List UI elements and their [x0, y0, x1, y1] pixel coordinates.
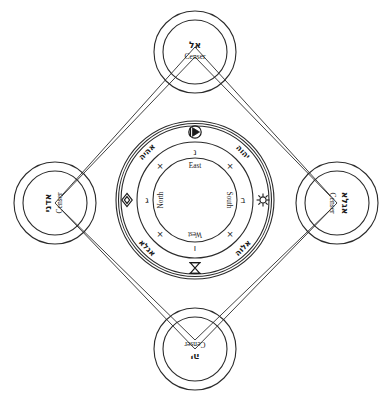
south-label-text: South — [225, 192, 233, 209]
symbol-west-hourglass — [189, 263, 200, 274]
cross-mark-se: × — [226, 229, 233, 239]
north-label-text: North — [157, 191, 165, 208]
east-label-text: East — [189, 162, 201, 170]
sigil-right: ב — [241, 195, 246, 205]
diamond-lines — [55, 47, 337, 349]
sigil-left-text: ג — [145, 195, 149, 205]
cross-mark-nw-text: × — [156, 161, 163, 171]
cross-mark-se-text: × — [226, 229, 233, 239]
cross-mark-sw: × — [156, 229, 163, 239]
sigil-left: ג — [145, 195, 149, 205]
cross-mark-sw-text: × — [156, 229, 163, 239]
sigil-top: נ — [193, 147, 196, 157]
west-label: West — [188, 230, 202, 238]
censer-bottom-label: Censer — [184, 340, 206, 349]
sigil-bottom-text: ו — [194, 243, 196, 253]
cross-mark-ne-text: × — [226, 161, 233, 171]
censer-right: אגלא Censer — [296, 162, 378, 244]
magic-circle-figure: אהיה יהוה אלוה אגלא נ ב ו ג × × — [0, 0, 390, 397]
censer-bottom-hebrew: יה — [190, 352, 199, 362]
sigil-bottom: ו — [194, 243, 196, 253]
south-label: South — [225, 192, 233, 209]
sigil-right-text: ב — [241, 195, 246, 205]
central-circle-group — [116, 121, 274, 279]
east-label: East — [189, 162, 201, 170]
symbol-east-triangle-in-circle — [189, 126, 201, 138]
cross-mark-ne: × — [226, 161, 233, 171]
censer-top-hebrew: אל — [189, 40, 201, 50]
symbol-south-sunburst — [257, 194, 270, 207]
symbol-north-rhombus — [122, 193, 132, 206]
censer-bottom: יה Censer — [154, 308, 236, 390]
censer-right-hebrew: אגלא — [340, 192, 350, 215]
censer-left-hebrew: אדני — [43, 194, 53, 213]
censer-left-label: Censer — [55, 192, 64, 214]
censer-right-label: Censer — [328, 192, 337, 214]
sigil-top-text: נ — [193, 147, 196, 157]
cross-mark-nw: × — [156, 161, 163, 171]
diagram-canvas: אהיה יהוה אלוה אגלא נ ב ו ג × × — [0, 0, 390, 397]
censer-top: אל Censer — [154, 11, 236, 93]
north-label: North — [157, 191, 165, 208]
west-label-text: West — [188, 230, 202, 238]
censer-left: אדני Censer — [14, 162, 96, 244]
censer-top-label: Censer — [184, 52, 206, 61]
